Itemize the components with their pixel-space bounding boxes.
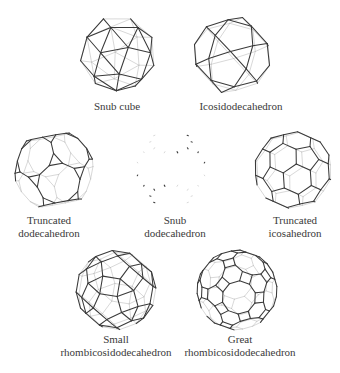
edge — [237, 252, 246, 253]
edge — [319, 159, 328, 163]
edge — [267, 170, 275, 181]
edge — [99, 320, 106, 325]
edge — [235, 265, 242, 272]
edge — [208, 262, 215, 270]
edge — [220, 325, 230, 328]
edge — [112, 301, 129, 304]
edge — [94, 74, 119, 76]
edge — [211, 277, 220, 278]
edge — [74, 167, 84, 169]
edge — [208, 299, 215, 306]
edge — [164, 185, 165, 186]
edge — [270, 143, 283, 152]
edge — [115, 283, 132, 286]
edge — [120, 324, 136, 330]
edge — [93, 294, 99, 308]
edge — [88, 167, 93, 168]
edge — [117, 297, 121, 313]
label-line: icosahedron — [268, 227, 321, 240]
edge — [15, 161, 17, 173]
edge — [144, 297, 146, 311]
edge — [275, 279, 277, 286]
edge — [129, 266, 142, 278]
edge — [103, 276, 120, 279]
edge — [240, 281, 250, 284]
edge — [49, 153, 53, 165]
edge — [218, 41, 234, 58]
edge — [221, 314, 223, 321]
edge — [30, 202, 39, 207]
edge — [257, 65, 270, 81]
edge — [253, 30, 255, 52]
label-line: Small — [60, 333, 171, 346]
edge — [101, 262, 103, 276]
edge — [272, 293, 274, 300]
edge — [234, 296, 244, 299]
edge — [228, 311, 238, 314]
edge — [115, 52, 139, 65]
edge — [81, 61, 95, 77]
edge — [201, 308, 207, 317]
edge — [46, 177, 55, 187]
icosidodecahedron-label: Icosidodecahedron — [199, 100, 282, 113]
edge — [222, 277, 229, 284]
edge — [87, 19, 103, 37]
edge — [87, 37, 101, 53]
label-line: rhombicosidodecahedron — [60, 346, 171, 359]
edge — [266, 198, 273, 201]
edge — [110, 260, 125, 267]
edge — [138, 304, 150, 307]
edge — [316, 162, 323, 173]
edge — [253, 322, 261, 326]
edge — [177, 185, 178, 186]
edge — [131, 19, 138, 28]
edge — [43, 198, 44, 206]
edge — [233, 321, 241, 325]
edge — [94, 274, 98, 290]
snub-dodecahedron-label: Snub dodecahedron — [144, 214, 206, 240]
edge — [283, 164, 296, 173]
edge — [328, 164, 329, 179]
small-rhombicosidodecahedron-drawing — [76, 250, 156, 329]
edge — [241, 255, 251, 258]
edge — [17, 161, 20, 172]
edge — [208, 285, 216, 289]
edge — [117, 279, 120, 297]
edge — [263, 167, 270, 178]
label-line: Truncated — [268, 214, 321, 227]
edge — [103, 301, 112, 314]
edge — [37, 175, 39, 187]
edge — [88, 168, 91, 179]
snub-cube-drawing — [81, 19, 154, 91]
edge — [275, 155, 276, 170]
edge — [231, 250, 240, 251]
edge — [290, 167, 303, 176]
edge — [230, 51, 246, 68]
edge — [43, 198, 55, 203]
edge — [237, 327, 243, 329]
edge — [78, 192, 79, 200]
edge — [283, 135, 284, 144]
edge — [30, 141, 31, 149]
edge — [107, 313, 122, 320]
edge — [119, 74, 141, 79]
edge — [275, 194, 276, 203]
edge — [223, 302, 229, 311]
edge — [59, 165, 69, 174]
edge — [117, 321, 132, 328]
edge — [196, 64, 211, 80]
edge — [100, 252, 115, 259]
edge — [209, 58, 211, 80]
edge — [197, 294, 199, 301]
edge — [245, 296, 252, 303]
edge — [82, 274, 94, 277]
edge — [209, 51, 231, 58]
edge — [310, 138, 311, 147]
edge — [40, 166, 50, 175]
edge — [221, 311, 229, 315]
edge — [119, 48, 128, 75]
edge — [225, 296, 235, 299]
edge — [230, 46, 252, 52]
edge — [16, 181, 22, 192]
edge — [71, 153, 80, 163]
